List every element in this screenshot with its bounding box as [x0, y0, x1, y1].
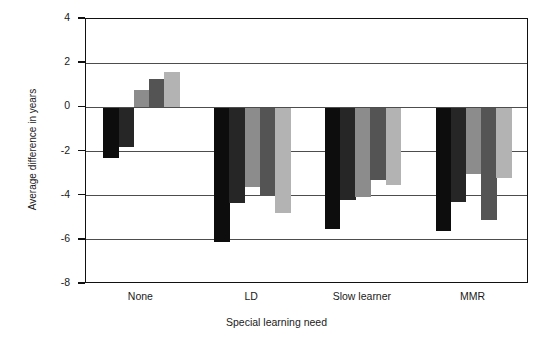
- bar: [245, 107, 261, 187]
- bar: [275, 107, 291, 213]
- x-category-label: None: [128, 290, 153, 302]
- bar: [340, 107, 356, 200]
- gridline: [86, 239, 527, 240]
- bar: [149, 79, 165, 108]
- x-category-label: LD: [244, 290, 257, 302]
- bar: [134, 90, 150, 108]
- bar: [451, 107, 467, 202]
- bar: [325, 107, 341, 228]
- zero-baseline: [86, 107, 527, 108]
- x-category-label: Slow learner: [333, 290, 391, 302]
- bar: [103, 107, 119, 158]
- y-tick-mark: [78, 61, 85, 63]
- bar: [436, 107, 452, 231]
- chart-figure: Average difference in years 420-2-4-6-8 …: [0, 0, 553, 337]
- gridline: [86, 63, 527, 64]
- y-tick-mark: [78, 17, 85, 19]
- bar: [386, 107, 402, 184]
- y-tick-mark: [78, 282, 85, 284]
- bar: [229, 107, 245, 203]
- y-tick-mark: [78, 150, 85, 152]
- x-axis-title: Special learning need: [0, 316, 553, 328]
- bar: [214, 107, 230, 242]
- bar: [355, 107, 371, 196]
- y-tick-label: -2: [25, 144, 70, 156]
- y-tick-label: -4: [25, 188, 70, 200]
- y-tick-label: 4: [25, 11, 70, 23]
- x-category-label: MMR: [460, 290, 485, 302]
- bar: [260, 107, 276, 195]
- y-tick-label: -8: [25, 276, 70, 288]
- plot-area: [85, 18, 528, 283]
- y-tick-mark: [78, 106, 85, 108]
- y-tick-mark: [78, 194, 85, 196]
- bar: [496, 107, 512, 178]
- plot-inner: [86, 19, 527, 282]
- bar: [119, 107, 135, 147]
- bar: [481, 107, 497, 220]
- y-tick-mark: [78, 238, 85, 240]
- y-tick-label: 2: [25, 55, 70, 67]
- bar: [370, 107, 386, 180]
- y-tick-label: -6: [25, 232, 70, 244]
- y-tick-label: 0: [25, 99, 70, 111]
- bar: [466, 107, 482, 173]
- bar: [164, 72, 180, 107]
